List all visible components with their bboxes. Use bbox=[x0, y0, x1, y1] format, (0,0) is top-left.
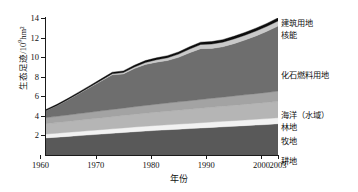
legend-label-牧地: 牧地 bbox=[281, 138, 297, 146]
x-axis-title: 年份 bbox=[0, 172, 358, 185]
y-tick-label: 4 bbox=[9, 111, 39, 121]
legend-label-化石燃料用地: 化石燃料用地 bbox=[281, 72, 329, 80]
x-tick-label: 1990 bbox=[198, 160, 215, 170]
x-tick-label: 2000 bbox=[253, 160, 270, 170]
x-tick-mark bbox=[96, 155, 97, 159]
y-tick-label: 2 bbox=[9, 130, 39, 140]
x-tick-label: 1960 bbox=[32, 160, 49, 170]
x-tick-mark bbox=[206, 155, 207, 159]
ecological-footprint-chart: 生态足迹/109hm² 2468101214 19601970198019902… bbox=[0, 0, 358, 192]
x-axis-line bbox=[45, 155, 279, 156]
y-tick-label: 10 bbox=[9, 52, 39, 62]
legend-label-林地: 林地 bbox=[281, 124, 297, 132]
y-axis-title-main: 生态足迹/10 bbox=[18, 43, 28, 90]
legend-label-耕地: 耕地 bbox=[281, 158, 297, 166]
legend-label-海洋（水域）: 海洋（水域） bbox=[281, 112, 329, 120]
legend-label-核能: 核能 bbox=[281, 32, 297, 40]
x-tick-label: 1980 bbox=[142, 160, 159, 170]
x-tick-mark bbox=[278, 155, 279, 159]
legend-label-建筑用地: 建筑用地 bbox=[281, 20, 313, 28]
stacked-area-series bbox=[46, 18, 278, 155]
x-tick-mark bbox=[40, 155, 41, 159]
y-tick-label: 14 bbox=[9, 13, 39, 23]
plot-area bbox=[46, 18, 278, 155]
y-tick-label: 12 bbox=[9, 33, 39, 43]
x-tick-mark bbox=[151, 155, 152, 159]
y-tick-label: 8 bbox=[9, 72, 39, 82]
x-tick-mark bbox=[261, 155, 262, 159]
y-tick-label: 6 bbox=[9, 91, 39, 101]
x-tick-label: 1970 bbox=[87, 160, 104, 170]
